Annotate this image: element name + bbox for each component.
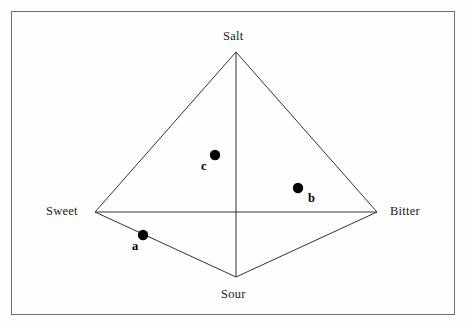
tetrahedron-diagram (0, 0, 466, 327)
point-label-c: c (201, 160, 207, 173)
figure-canvas: Salt Sweet Bitter Sour a b c (0, 0, 466, 327)
data-point-c (210, 150, 220, 160)
vertex-label-bitter: Bitter (390, 205, 420, 218)
point-label-a: a (132, 240, 138, 253)
edge-sour-bitter (236, 212, 377, 277)
edge-sweet-sour (95, 212, 236, 277)
vertex-label-salt: Salt (223, 30, 243, 43)
data-point-a (138, 230, 148, 240)
vertex-label-sour: Sour (221, 288, 246, 301)
data-point-b (293, 183, 303, 193)
point-label-b: b (308, 192, 315, 205)
edge-salt-bitter (236, 52, 377, 212)
data-points (138, 150, 303, 240)
edge-salt-sweet (95, 52, 236, 212)
vertex-label-sweet: Sweet (46, 205, 78, 218)
